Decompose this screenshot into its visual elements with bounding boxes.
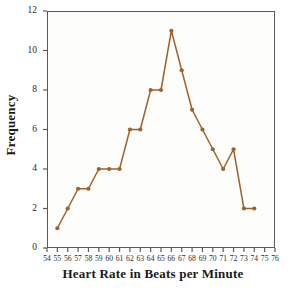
chart-figure: Frequency 024681012 54555657585960616263… <box>0 0 293 296</box>
data-point <box>97 167 101 171</box>
data-point <box>169 29 173 33</box>
data-point <box>159 88 163 92</box>
x-axis-tick-marks <box>47 248 275 252</box>
data-point <box>180 68 184 72</box>
data-point <box>211 147 215 151</box>
data-point <box>128 127 132 131</box>
y-tick-label: 12 <box>15 5 37 15</box>
data-point <box>107 167 111 171</box>
data-point <box>55 226 59 230</box>
data-point <box>221 167 225 171</box>
data-point <box>242 206 246 210</box>
y-tick-label: 2 <box>15 203 37 213</box>
x-axis-title: Heart Rate in Beats per Minute <box>22 266 284 282</box>
data-point <box>66 206 70 210</box>
data-point <box>252 206 256 210</box>
chart-svg <box>0 0 293 296</box>
y-tick-label: 4 <box>15 163 37 173</box>
y-tick-label: 6 <box>15 124 37 134</box>
data-point <box>149 88 153 92</box>
data-point-markers <box>55 29 256 231</box>
data-point <box>138 127 142 131</box>
y-axis-tick-marks <box>43 11 47 248</box>
data-point <box>190 108 194 112</box>
y-tick-label: 10 <box>15 45 37 55</box>
data-point <box>117 167 121 171</box>
data-point <box>231 147 235 151</box>
x-tick-label: 76 <box>267 254 283 263</box>
data-point <box>76 187 80 191</box>
data-point <box>86 187 90 191</box>
data-line <box>57 31 254 229</box>
y-tick-label: 0 <box>15 242 37 252</box>
y-tick-label: 8 <box>15 84 37 94</box>
data-point <box>200 127 204 131</box>
